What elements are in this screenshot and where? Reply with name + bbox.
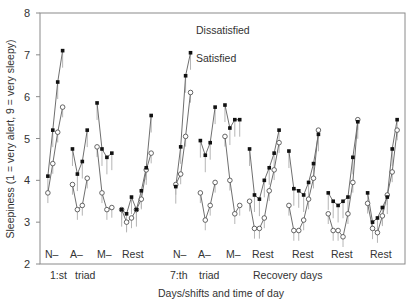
dissatisfied-point bbox=[135, 208, 139, 212]
y-tick-label: 7 bbox=[24, 49, 30, 61]
dissatisfied-point bbox=[376, 216, 380, 220]
dissatisfied-point bbox=[125, 212, 129, 216]
satisfied-point bbox=[390, 170, 395, 175]
dissatisfied-point bbox=[312, 162, 316, 166]
dissatisfied-point bbox=[61, 49, 65, 53]
segment-label-rest-r1: Rest bbox=[252, 248, 274, 260]
satisfied-point bbox=[395, 128, 400, 133]
satisfied-point bbox=[85, 176, 90, 181]
satisfied-point bbox=[50, 161, 55, 166]
satisfied-point bbox=[129, 216, 134, 221]
y-tick-label: 6 bbox=[24, 91, 30, 103]
segment-group bbox=[70, 128, 89, 219]
satisfied-point bbox=[331, 228, 336, 233]
y-tick-label: 2 bbox=[24, 258, 30, 270]
y-tick-label: 5 bbox=[24, 133, 30, 145]
satisfied-point bbox=[100, 191, 105, 196]
satisfied-point bbox=[75, 207, 80, 212]
satisfied-point bbox=[183, 134, 188, 139]
dissatisfied-point bbox=[203, 153, 207, 157]
satisfied-point bbox=[351, 180, 356, 185]
dissatisfied-point bbox=[95, 101, 99, 105]
satisfied-point bbox=[223, 134, 228, 139]
series-layer bbox=[46, 49, 400, 247]
y-tick-label: 3 bbox=[24, 216, 30, 228]
dissatisfied-point bbox=[51, 128, 55, 132]
segment-label-a-7: A– bbox=[198, 248, 211, 260]
satisfied-point bbox=[341, 235, 346, 240]
satisfied-point bbox=[287, 203, 292, 208]
satisfied-point bbox=[46, 191, 51, 196]
dissatisfied-point bbox=[120, 208, 124, 212]
satisfied-point bbox=[95, 145, 100, 150]
dissatisfied-point bbox=[317, 133, 321, 137]
dissatisfied-point bbox=[100, 147, 104, 151]
dissatisfied-point bbox=[199, 139, 203, 143]
dissatisfied-line bbox=[225, 105, 240, 128]
segment-label-n-7: N– bbox=[173, 248, 187, 260]
satisfied-point bbox=[272, 168, 277, 173]
satisfied-point bbox=[105, 207, 110, 212]
dissatisfied-point bbox=[56, 80, 60, 84]
satisfied-point bbox=[247, 199, 252, 204]
dissatisfied-line bbox=[200, 107, 215, 155]
satisfied-point bbox=[232, 212, 237, 217]
annotation-dissatisfied: Dissatisfied bbox=[196, 24, 250, 36]
dissatisfied-point bbox=[356, 120, 360, 124]
dissatisfied-point bbox=[292, 187, 296, 191]
dissatisfied-point bbox=[238, 118, 242, 122]
dissatisfied-point bbox=[110, 151, 114, 155]
group-label-recovery: Recovery days bbox=[253, 269, 322, 281]
satisfied-line bbox=[328, 120, 358, 237]
dissatisfied-point bbox=[105, 156, 109, 160]
dissatisfied-point bbox=[174, 185, 178, 189]
dissatisfied-point bbox=[277, 128, 281, 132]
dissatisfied-line bbox=[122, 115, 152, 213]
dissatisfied-point bbox=[346, 195, 350, 199]
dissatisfied-point bbox=[189, 51, 193, 55]
segment-group bbox=[198, 105, 217, 230]
dissatisfied-point bbox=[149, 114, 153, 118]
dissatisfied-point bbox=[371, 220, 375, 224]
segment-label-rest-r2: Rest bbox=[292, 248, 314, 260]
dissatisfied-point bbox=[287, 149, 291, 153]
dissatisfied-point bbox=[326, 191, 330, 195]
segment-group bbox=[326, 117, 360, 247]
dissatisfied-point bbox=[302, 193, 306, 197]
satisfied-point bbox=[213, 180, 218, 185]
dissatisfied-line bbox=[48, 51, 63, 176]
dissatisfied-point bbox=[341, 199, 345, 203]
x-axis-title: Days/shifts and time of day bbox=[158, 287, 285, 299]
dissatisfied-line bbox=[97, 103, 112, 157]
dissatisfied-point bbox=[184, 74, 188, 78]
plot-frame bbox=[40, 13, 405, 264]
satisfied-point bbox=[262, 216, 267, 221]
satisfied-point bbox=[301, 218, 306, 223]
segment-label-rest-1: Rest bbox=[122, 248, 144, 260]
dissatisfied-point bbox=[258, 197, 262, 201]
dissatisfied-point bbox=[208, 141, 212, 145]
dissatisfied-point bbox=[130, 195, 134, 199]
segment-group bbox=[119, 114, 153, 233]
dissatisfied-point bbox=[248, 147, 252, 151]
dissatisfied-point bbox=[272, 151, 276, 155]
dissatisfied-point bbox=[307, 181, 311, 185]
dissatisfied-point bbox=[179, 145, 183, 149]
segment-label-m-1: M– bbox=[97, 248, 112, 260]
satisfied-point bbox=[55, 130, 60, 135]
satisfied-point bbox=[178, 172, 183, 177]
dissatisfied-point bbox=[366, 191, 370, 195]
satisfied-line bbox=[200, 182, 215, 220]
y-tick-label: 8 bbox=[24, 7, 30, 19]
satisfied-point bbox=[365, 201, 370, 206]
satisfied-line bbox=[225, 136, 240, 213]
satisfied-point bbox=[139, 197, 144, 202]
satisfied-line bbox=[48, 107, 63, 193]
dissatisfied-point bbox=[381, 206, 385, 210]
group-label-triad-1: triad bbox=[75, 269, 96, 281]
satisfied-point bbox=[110, 205, 115, 210]
dissatisfied-point bbox=[336, 204, 340, 208]
satisfied-point bbox=[237, 203, 242, 208]
satisfied-point bbox=[311, 176, 316, 181]
segment-group bbox=[95, 101, 114, 220]
